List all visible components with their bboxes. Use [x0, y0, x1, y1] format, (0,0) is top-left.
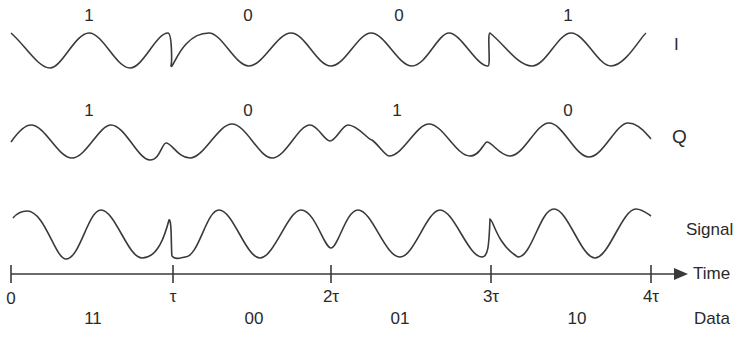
data-row-label: Data [694, 310, 730, 327]
data-symbol-2: 00 [245, 310, 264, 327]
time-axis-label: Time [693, 265, 730, 282]
i-row-label: I [674, 36, 679, 53]
i-bit-4: 1 [563, 7, 572, 24]
q-bit-1: 1 [84, 102, 93, 119]
q-bit-3: 1 [392, 102, 401, 119]
q-waveform [11, 123, 651, 160]
tick-label-2tau: 2τ [323, 288, 339, 305]
signal-waveform [13, 209, 651, 259]
data-symbol-1: 11 [84, 310, 102, 327]
tick-label-tau: τ [170, 288, 177, 305]
i-waveform [11, 33, 646, 68]
tick-label-0: 0 [6, 290, 15, 307]
waveform-canvas [0, 0, 743, 339]
i-bit-2: 0 [243, 7, 252, 24]
tick-label-4tau: 4τ [643, 288, 659, 305]
signal-row-label: Signal [686, 221, 733, 238]
q-bit-4: 0 [563, 102, 572, 119]
data-symbol-4: 10 [568, 310, 587, 327]
i-bit-3: 0 [394, 7, 403, 24]
q-row-label: Q [672, 127, 687, 146]
q-bit-2: 0 [243, 102, 252, 119]
tick-label-3tau: 3τ [483, 288, 499, 305]
data-symbol-3: 01 [391, 310, 410, 327]
i-bit-1: 1 [84, 7, 93, 24]
axis-arrowhead-icon [674, 268, 688, 280]
